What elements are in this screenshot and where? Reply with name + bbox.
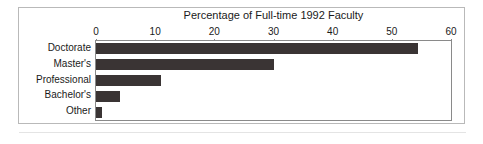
x-axis: 0102030405060: [95, 26, 452, 39]
chart-figure: Percentage of Full-time 1992 Faculty 010…: [0, 0, 483, 144]
bar: [96, 107, 102, 118]
y-axis-label: Professional: [0, 74, 91, 86]
y-axis-label: Other: [0, 105, 91, 117]
x-tick-label: 40: [327, 26, 338, 38]
x-tick-label: 60: [445, 26, 456, 38]
figure-frame-shadow: [19, 132, 466, 133]
y-axis-label: Master's: [0, 58, 91, 70]
x-tick-label: 30: [268, 26, 279, 38]
x-tick-label: 0: [93, 26, 99, 38]
x-tick-label: 10: [150, 26, 161, 38]
bar: [96, 43, 418, 54]
x-tick-label: 50: [386, 26, 397, 38]
bar: [96, 91, 120, 102]
x-tick-label: 20: [209, 26, 220, 38]
y-axis-category-labels: DoctorateMaster'sProfessionalBachelor'sO…: [0, 40, 91, 121]
bar: [96, 75, 161, 86]
y-axis-label: Doctorate: [0, 42, 91, 54]
bar: [96, 59, 274, 70]
y-axis-label: Bachelor's: [0, 89, 91, 101]
chart-title: Percentage of Full-time 1992 Faculty: [95, 9, 452, 22]
bar-series: [96, 41, 451, 120]
